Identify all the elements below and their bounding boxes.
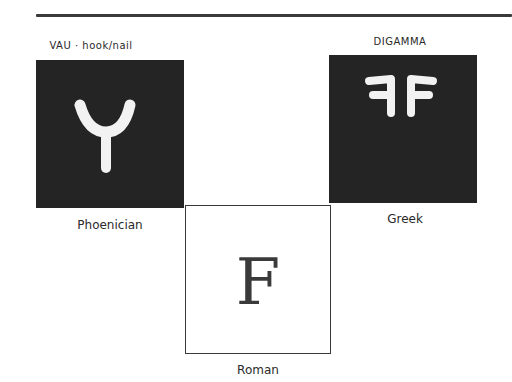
phoenician-box xyxy=(36,60,184,208)
roman-box: F xyxy=(185,205,331,354)
phoenician-caption: Phoenician xyxy=(60,218,160,232)
greek-box xyxy=(329,55,477,203)
greek-caption: Greek xyxy=(355,212,455,226)
phoenician-waw-icon xyxy=(36,60,184,208)
greek-digamma-icon xyxy=(329,55,477,203)
top-rule xyxy=(36,14,512,17)
roman-letter: F xyxy=(186,250,330,314)
phoenician-header: VAU · hook/nail xyxy=(36,40,146,51)
greek-header: DIGAMMA xyxy=(345,36,455,47)
roman-caption: Roman xyxy=(208,363,308,377)
